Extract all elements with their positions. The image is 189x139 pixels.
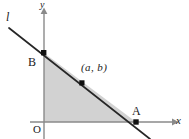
coordinate-geometry-figure: l y x B A O (a, b) — [0, 0, 189, 139]
point-label-b: B — [28, 56, 36, 68]
point-marker-a — [133, 119, 138, 124]
point-label-a: A — [132, 105, 141, 117]
point-label-ab: (a, b) — [81, 62, 107, 73]
y-axis-label: y — [40, 0, 44, 10]
point-marker-ab — [79, 80, 84, 85]
origin-label: O — [33, 124, 41, 135]
x-axis-label: x — [176, 115, 181, 126]
line-label-l: l — [6, 11, 9, 23]
point-marker-b — [41, 50, 46, 55]
